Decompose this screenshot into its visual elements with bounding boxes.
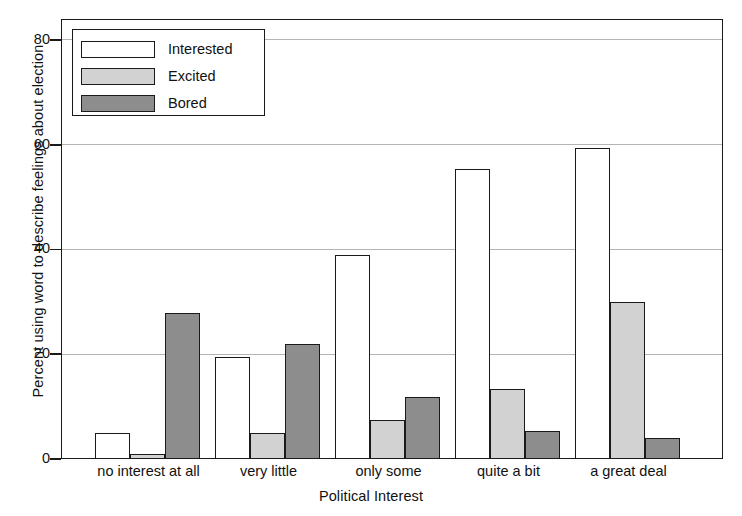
bar-bored [645,438,680,459]
y-axis-tick-label: 0 [6,451,50,466]
y-axis-tick [50,249,61,251]
y-axis-title: Percent using word to describe feelings … [30,1,46,441]
x-axis-label-3: quite a bit [477,463,540,479]
bar-excited [130,454,165,459]
x-axis-title: Political Interest [0,488,742,504]
bar-excited [610,302,645,459]
bar-interested [575,148,610,460]
legend-label-bored: Bored [168,96,207,111]
bar-bored [525,431,560,460]
bar-interested [335,255,370,459]
y-axis-tick-label: 60 [6,137,50,152]
legend-swatch-interested [81,41,155,58]
bar-interested [215,357,250,459]
legend-item-excited: Excited [81,64,256,88]
bar-excited [490,389,525,460]
x-axis-label-1: very little [240,463,297,479]
x-axis-label-2: only some [355,463,421,479]
legend-swatch-bored [81,95,155,112]
bar-excited [370,420,405,459]
chart-figure: Percent using word to describe feelings … [0,0,742,516]
y-axis-tick [50,458,61,460]
y-axis-tick [50,144,61,146]
y-axis-tick-label: 80 [6,32,50,47]
bar-bored [405,397,440,460]
legend-item-interested: Interested [81,37,256,61]
legend-swatch-excited [81,68,155,85]
legend-label-interested: Interested [168,42,233,57]
bar-interested [95,433,130,459]
gridline [62,144,722,145]
y-axis-tick [50,353,61,355]
legend-label-excited: Excited [168,69,216,84]
y-axis-tick-label: 20 [6,346,50,361]
y-axis-tick [50,39,61,41]
x-axis-label-4: a great deal [590,463,667,479]
legend-item-bored: Bored [81,91,256,115]
x-axis-label-0: no interest at all [97,463,199,479]
legend: Interested Excited Bored [72,29,265,116]
bar-interested [455,169,490,460]
bar-excited [250,433,285,459]
bar-bored [285,344,320,459]
y-axis-tick-label: 40 [6,241,50,256]
bar-bored [165,313,200,460]
gridline [62,249,722,250]
